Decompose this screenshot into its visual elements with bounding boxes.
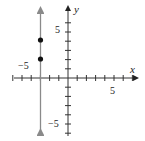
point-neg3-4 (38, 37, 43, 42)
y-axis-label: y (73, 3, 79, 15)
y-tick-label-neg5: −5 (48, 118, 59, 129)
y-tick-label-5: 5 (55, 24, 60, 35)
x-tick-label-neg5: −5 (18, 60, 29, 71)
point-neg3-2 (38, 56, 43, 61)
x-tick-label-5: 5 (110, 85, 115, 96)
coordinate-plane: y x 5 −5 −5 5 (0, 0, 145, 141)
x-axis-label: x (129, 63, 135, 75)
